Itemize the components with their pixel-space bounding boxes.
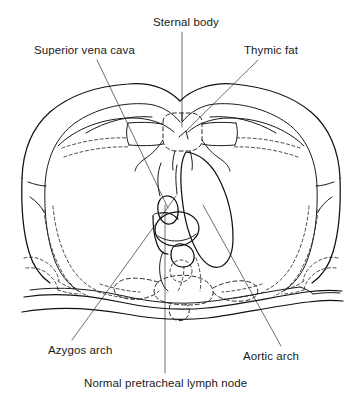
label-superior-vena-cava: Superior vena cava [34,44,135,57]
leader-line-superior-vena-cava [97,60,168,208]
pleural-outline [45,104,317,291]
trachea [153,210,200,248]
scapula-right [266,206,338,296]
thoracic-ct-diagram: Sternal body Superior vena cava Thymic f… [0,0,363,401]
anterior-soft-tissue-lines [28,117,334,212]
label-azygos-arch: Azygos arch [48,344,112,357]
label-aortic-arch: Aortic arch [243,350,299,363]
scapula-left [24,206,96,296]
sternal-body [163,113,202,151]
leader-line-aortic-arch [203,205,281,346]
label-thymic-fat: Thymic fat [244,44,298,57]
anatomy-drawing-canvas [0,0,363,401]
pretracheal-lymph-node [171,244,194,267]
aortic-arch [181,152,233,267]
azygos-arch [153,213,178,254]
vertebral-body [114,260,258,321]
label-normal-pretracheal-lymph-node: Normal pretracheal lymph node [84,377,247,390]
label-sternal-body: Sternal body [153,16,219,29]
